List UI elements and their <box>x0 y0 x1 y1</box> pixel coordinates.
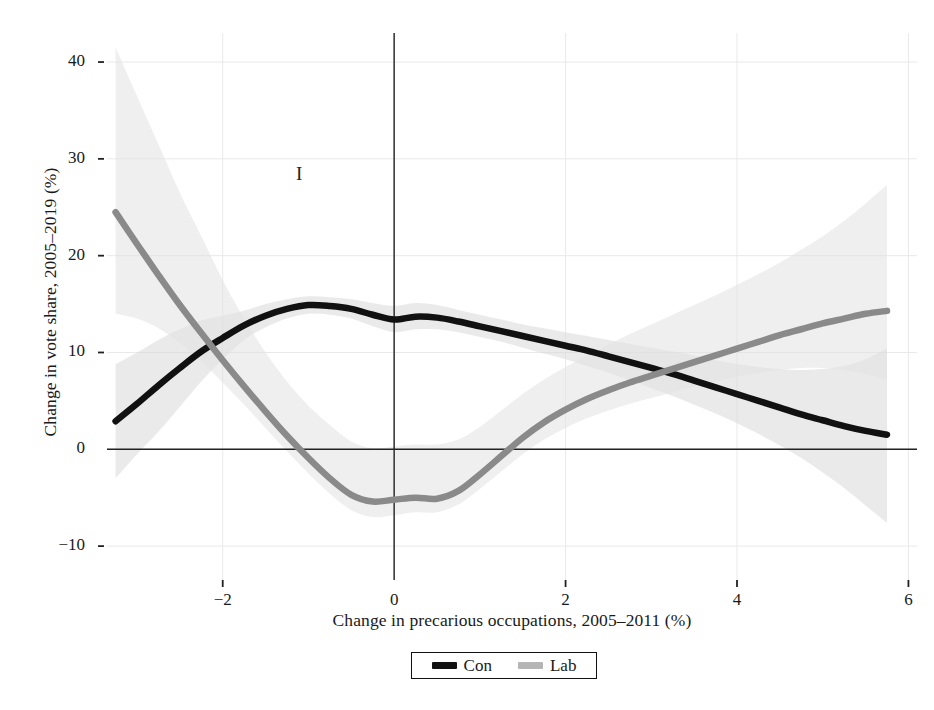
chart-figure: Change in vote share, 2005–2019 (%) Chan… <box>0 0 934 710</box>
legend-swatch-lab <box>518 662 543 669</box>
x-tick-label: 4 <box>717 590 757 610</box>
y-tick-label: 30 <box>45 148 85 168</box>
legend-label-con: Con <box>464 657 492 674</box>
y-tick-label: 10 <box>45 341 85 361</box>
x-tick-label: −2 <box>203 590 243 610</box>
legend-label-lab: Lab <box>550 657 576 674</box>
x-tick-label: 2 <box>546 590 586 610</box>
x-axis-title: Change in precarious occupations, 2005–2… <box>107 610 917 631</box>
y-tick-label: 40 <box>45 51 85 71</box>
confidence-band-lab <box>116 48 887 518</box>
legend-swatch-con <box>432 662 457 669</box>
y-tick-label: 20 <box>45 245 85 265</box>
y-tick-label: 0 <box>45 438 85 458</box>
plot-area <box>0 0 934 710</box>
y-tick-label: −10 <box>45 535 85 555</box>
y-axis-title: Change in vote share, 2005–2019 (%) <box>40 22 61 582</box>
legend-entry-lab[interactable]: Lab <box>518 657 576 674</box>
panel-annotation: I <box>296 163 302 185</box>
legend: Con Lab <box>411 652 597 679</box>
legend-entry-con[interactable]: Con <box>432 657 492 674</box>
confidence-bands <box>116 48 887 523</box>
x-tick-label: 6 <box>888 590 928 610</box>
x-tick-label: 0 <box>374 590 414 610</box>
